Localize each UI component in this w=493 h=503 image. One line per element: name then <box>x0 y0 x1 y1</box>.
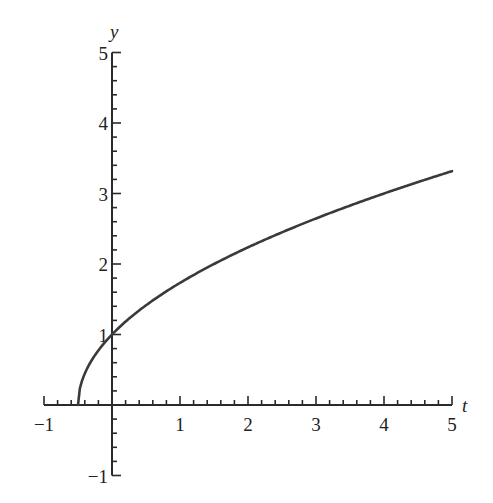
x-axis-label: t <box>462 395 468 416</box>
y-tick-label: 3 <box>99 184 109 205</box>
data-curve <box>78 171 452 405</box>
chart: −11234554321−1 t y <box>0 0 493 503</box>
y-tick-label: 2 <box>99 254 109 275</box>
y-tick-label: −1 <box>88 466 108 487</box>
tick-labels: −11234554321−1 <box>34 43 457 487</box>
x-tick-label: 4 <box>379 414 389 435</box>
y-axis-label: y <box>108 21 119 42</box>
x-tick-label: 1 <box>175 414 185 435</box>
x-tick-label: 3 <box>311 414 321 435</box>
y-tick-label: 4 <box>99 113 109 134</box>
y-tick-label: 5 <box>99 43 109 64</box>
x-tick-label: −1 <box>34 414 54 435</box>
x-tick-label: 5 <box>447 414 457 435</box>
x-tick-label: 2 <box>243 414 253 435</box>
